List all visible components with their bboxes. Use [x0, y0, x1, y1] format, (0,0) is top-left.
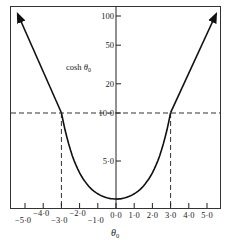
- x-tick-label-5: 0·0: [110, 210, 121, 220]
- curve-label: cosh θ0: [66, 62, 91, 73]
- curve-label-sub: 0: [88, 67, 91, 73]
- y-tick-label-2: 10·0: [98, 108, 114, 118]
- curve-arrow-right: [171, 14, 217, 113]
- x-tick-label-2: −3·0: [51, 215, 67, 225]
- y-tick-label-4: 50: [106, 40, 115, 50]
- x-title-sub: 0: [116, 232, 119, 239]
- x-tick-label-8: 3·0: [165, 210, 176, 220]
- x-tick-label-10: 5·0: [201, 210, 212, 220]
- y-tick-label-1: 5·0: [103, 156, 114, 166]
- x-tick-label-4: −1·0: [88, 215, 104, 225]
- curve-label-func: cosh: [66, 62, 84, 72]
- y-tick-label-3: 20: [106, 79, 115, 89]
- x-tick-label-1: −4·0: [33, 208, 49, 218]
- x-tick-label-7: 2·0: [147, 210, 158, 220]
- x-tick-label-9: 4·0: [183, 210, 194, 220]
- y-tick-label-5: 100: [101, 11, 114, 21]
- chart: 5·010·02050100 −5·0−4·0−3·0−2·0−1·00·01·…: [0, 0, 226, 246]
- x-tick-label-0: −5·0: [15, 215, 31, 225]
- x-axis-title: θ0: [111, 227, 119, 239]
- x-tick-label-3: −2·0: [70, 208, 86, 218]
- curve-arrow-left: [18, 14, 62, 113]
- x-tick-label-6: 1·0: [129, 210, 140, 220]
